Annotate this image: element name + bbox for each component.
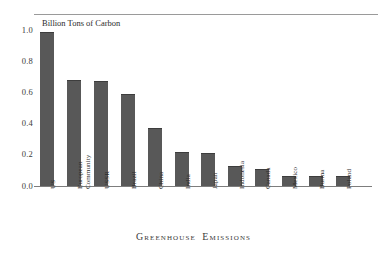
y-axis-tick-label: 1.0	[11, 26, 33, 35]
x-axis-category-label: Canada	[265, 175, 273, 189]
y-axis-tick-label: 0.0	[11, 182, 33, 191]
y-axis-tick-label: 0.4	[11, 119, 33, 128]
x-axis-category-label: India	[185, 175, 193, 189]
y-axis-title: Billion Tons of Carbon	[42, 18, 120, 28]
bar	[40, 32, 54, 186]
x-axis-category-label: Brazil	[131, 175, 139, 189]
x-axis-category-label: European Community	[77, 145, 92, 189]
y-axis-tick-label: 0.8	[11, 57, 33, 66]
x-axis-category-label: US	[50, 175, 58, 189]
greenhouse-emissions-figure: Billion Tons of Carbon 1.00.80.60.40.20.…	[0, 0, 387, 254]
y-axis-tick-label: 0.6	[11, 88, 33, 97]
chart-caption: Greenhouse Emissions	[0, 231, 387, 243]
y-axis-tick-label: 0.2	[11, 150, 33, 159]
x-axis-category-label: USSR	[104, 175, 112, 189]
x-axis-category-label: Poland	[346, 175, 354, 189]
x-axis-category-label: Burma	[319, 175, 327, 189]
x-axis-category-label: Mexico	[292, 175, 300, 189]
bar-chart-plot: Billion Tons of Carbon 1.00.80.60.40.20.…	[0, 0, 387, 254]
x-axis-category-label: China	[158, 175, 166, 189]
x-axis-category-label: Japan	[212, 175, 220, 189]
x-axis-category-label: Indonesia	[239, 175, 247, 189]
